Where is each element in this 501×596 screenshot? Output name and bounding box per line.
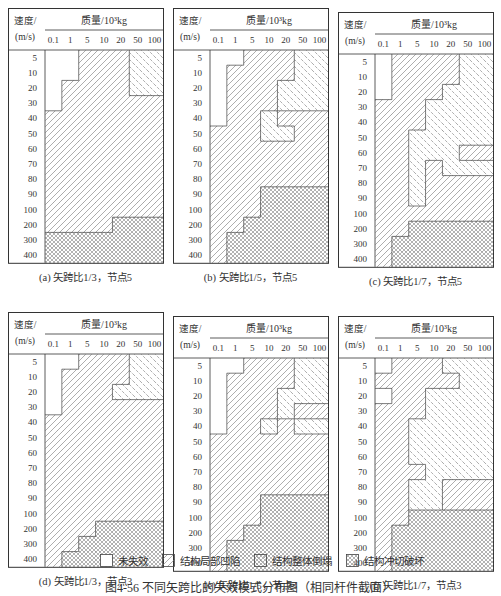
cell-C xyxy=(476,84,493,100)
cell-C xyxy=(311,388,328,404)
cell-L xyxy=(62,217,79,233)
cell-P xyxy=(426,525,443,541)
cell-L xyxy=(79,141,96,157)
speed-tick: 60 xyxy=(28,448,38,458)
cell-P xyxy=(261,248,278,264)
panel-f: 速度/(m/s)质量/10³kg0.1151020501005102030405… xyxy=(338,316,498,573)
cell-L xyxy=(227,202,244,218)
cell-L xyxy=(62,369,79,385)
mass-tick: 10 xyxy=(265,35,275,45)
cell-P xyxy=(426,540,443,556)
cell-P xyxy=(294,202,311,218)
cell-P xyxy=(294,510,311,526)
cell-P xyxy=(459,540,476,556)
cell-L xyxy=(244,96,261,112)
cell-L xyxy=(459,495,476,511)
speed-tick: 90 xyxy=(193,497,203,507)
cell-C xyxy=(409,434,426,450)
cell-C xyxy=(426,434,443,450)
cell-L xyxy=(426,54,443,70)
cell-P xyxy=(426,221,443,237)
cell-L xyxy=(227,111,244,127)
cell-L xyxy=(129,172,146,188)
cell-L xyxy=(79,521,96,537)
cell-C xyxy=(459,100,476,116)
cell-C xyxy=(476,358,493,374)
speed-unit: (m/s) xyxy=(180,340,200,351)
mass-tick: 100 xyxy=(313,343,327,353)
legend: 未失效 结构局部凹陷 结构整体倒塌 结构冲切破坏 xyxy=(100,553,424,568)
cell-L xyxy=(261,464,278,480)
cell-L xyxy=(62,156,79,172)
cell-C xyxy=(426,115,443,131)
cell-L xyxy=(459,206,476,222)
cell-L xyxy=(294,141,311,157)
cell-C xyxy=(146,80,163,96)
cell-P xyxy=(459,236,476,252)
cell-L xyxy=(277,358,294,374)
cell-P xyxy=(294,187,311,203)
cell-P xyxy=(261,495,278,511)
cell-L xyxy=(375,145,392,161)
cell-L xyxy=(227,217,244,233)
cell-L xyxy=(112,96,129,112)
cell-P xyxy=(129,232,146,248)
mass-tick: 5 xyxy=(85,35,90,45)
cell-C xyxy=(459,464,476,480)
cell-P xyxy=(426,252,443,268)
legend-item-L: 结构局部凹陷 xyxy=(162,553,240,568)
cell-L xyxy=(261,373,278,389)
cell-L xyxy=(294,172,311,188)
mass-tick: 10 xyxy=(430,343,440,353)
cell-L xyxy=(146,430,163,446)
speed-unit: (m/s) xyxy=(345,340,365,351)
cell-C xyxy=(426,145,443,161)
speed-tick: 70 xyxy=(193,467,203,477)
cell-L xyxy=(227,510,244,526)
cell-L xyxy=(96,202,113,218)
cell-L xyxy=(261,141,278,157)
cell-L xyxy=(375,510,392,526)
cell-C xyxy=(129,80,146,96)
speed-tick: 70 xyxy=(358,163,368,173)
cell-C xyxy=(409,480,426,496)
cell-L xyxy=(210,510,227,526)
mass-tick: 100 xyxy=(148,35,162,45)
cell-L xyxy=(112,111,129,127)
speed-tick: 60 xyxy=(358,148,368,158)
speed-tick: 100 xyxy=(354,513,368,523)
cell-L xyxy=(476,176,493,192)
cell-C xyxy=(442,388,459,404)
cell-L xyxy=(79,172,96,188)
cell-L xyxy=(392,100,409,116)
cell-C xyxy=(459,160,476,176)
cell-L xyxy=(45,491,62,507)
cell-C xyxy=(476,100,493,116)
cell-L xyxy=(79,430,96,446)
cell-C xyxy=(311,80,328,96)
cell-L xyxy=(392,480,409,496)
cell-L xyxy=(62,111,79,127)
cell-L xyxy=(311,449,328,465)
cell-P xyxy=(277,232,294,248)
cell-L xyxy=(294,126,311,142)
cell-L xyxy=(244,156,261,172)
cell-L xyxy=(277,65,294,81)
cell-L xyxy=(244,480,261,496)
cell-L xyxy=(129,430,146,446)
cell-P xyxy=(442,556,459,572)
speed-label: 速度/ xyxy=(344,323,367,334)
cell-L xyxy=(210,187,227,203)
mass-tick: 50 xyxy=(133,339,143,349)
cell-L xyxy=(294,480,311,496)
cell-P xyxy=(311,232,328,248)
cell-C xyxy=(409,130,426,146)
cell-L xyxy=(129,460,146,476)
cell-C xyxy=(261,111,278,127)
cell-L xyxy=(409,100,426,116)
legend-label: 结构冲切破坏 xyxy=(364,553,424,568)
cell-L xyxy=(210,172,227,188)
cell-L xyxy=(210,156,227,172)
cell-L xyxy=(45,156,62,172)
